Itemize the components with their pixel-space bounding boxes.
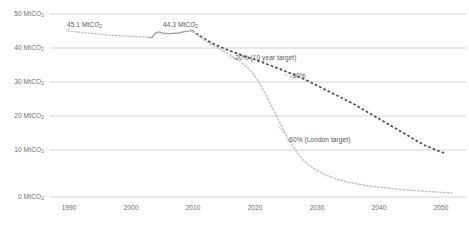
y-tick-40: 40 MtCO2 xyxy=(2,44,44,51)
annotation-start-sub: 2 xyxy=(99,24,102,29)
leader-peak xyxy=(190,28,191,30)
x-tick-2030: 2030 xyxy=(297,204,337,211)
y-tick-0-sub: 2 xyxy=(41,196,44,201)
emissions-projection-chart: 50 MtCO2 40 MtCO2 30 MtCO2 20 MtCO2 10 M… xyxy=(0,0,469,238)
figure-caption-clipped xyxy=(0,231,469,238)
y-tick-10: 10 MtCO2 xyxy=(2,146,44,153)
annotation-target-60: -60% (London target) xyxy=(287,136,350,143)
y-tick-0: 0 MtCO2 xyxy=(2,193,44,200)
y-tick-50: 50 MtCO2 xyxy=(2,10,44,17)
series-target-dark xyxy=(192,31,444,153)
annotation-leaders xyxy=(66,28,288,133)
x-tick-2000: 2000 xyxy=(111,204,151,211)
y-tick-30: 30 MtCO2 xyxy=(2,78,44,85)
leader-30 xyxy=(284,74,288,76)
x-tick-2010: 2010 xyxy=(173,204,213,211)
x-tick-2040: 2040 xyxy=(359,204,399,211)
y-tick-50-sub: 2 xyxy=(41,13,44,18)
annotation-target-30: -30% xyxy=(290,72,306,79)
x-tick-1990: 1990 xyxy=(49,204,89,211)
x-tick-2020: 2020 xyxy=(235,204,275,211)
leader-20 xyxy=(228,56,232,58)
x-tick-2050: 2050 xyxy=(421,204,461,211)
annotation-peak-value: 44.3 MtCO2 xyxy=(163,21,198,28)
y-tick-30-sub: 2 xyxy=(41,81,44,86)
annotation-peak-sub: 2 xyxy=(195,24,198,29)
annotation-start-value: 45.1 MtCO2 xyxy=(67,21,102,28)
series-target-light xyxy=(192,31,452,193)
annotation-target-20: -20% (10 year target) xyxy=(233,54,297,61)
y-tick-10-sub: 2 xyxy=(41,149,44,154)
series-historic-dotted xyxy=(68,31,148,37)
chart-plot-area xyxy=(0,0,469,238)
y-tick-20: 20 MtCO2 xyxy=(2,112,44,119)
gridlines xyxy=(50,14,466,197)
y-tick-40-sub: 2 xyxy=(41,47,44,52)
y-tick-20-sub: 2 xyxy=(41,115,44,120)
series-historic-solid xyxy=(148,31,192,38)
